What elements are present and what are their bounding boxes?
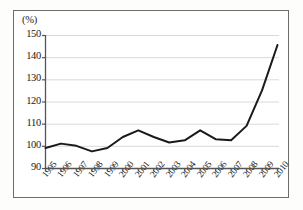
gridlines bbox=[46, 36, 280, 147]
figure-root: (%) 90100110120130140150 199519961997199… bbox=[0, 0, 303, 210]
line-chart-plot bbox=[0, 0, 303, 210]
data-series-line bbox=[46, 45, 278, 151]
